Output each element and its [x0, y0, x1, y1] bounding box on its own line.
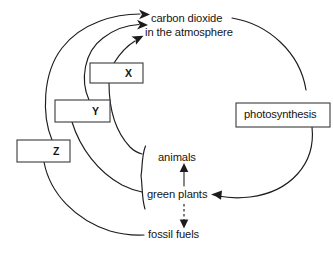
carbon-cycle-diagram: carbon dioxide in the atmosphere X Y Z p…	[0, 0, 333, 253]
box-z-label: Z	[53, 146, 59, 157]
label-animals: animals	[158, 152, 196, 163]
box-x-rect[interactable]	[90, 63, 143, 83]
box-y-rect[interactable]	[55, 100, 110, 122]
label-carbon-dioxide-line1: carbon dioxide	[151, 13, 222, 24]
box-photosynthesis-label: photosynthesis	[244, 109, 317, 120]
box-y-label: Y	[92, 106, 99, 117]
box-x-label: X	[125, 68, 132, 79]
label-carbon-dioxide-line2: in the atmosphere	[145, 27, 233, 38]
label-fossil-fuels: fossil fuels	[148, 229, 199, 240]
box-z-rect[interactable]	[17, 140, 70, 162]
label-green-plants: green plants	[147, 189, 207, 200]
